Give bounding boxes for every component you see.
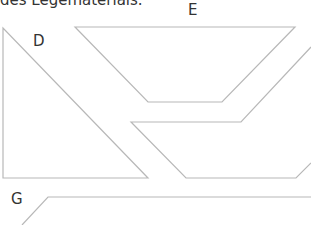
puzzle-shapes-diagram xyxy=(0,0,311,225)
label-d: D xyxy=(33,34,45,49)
shape-d-triangle xyxy=(3,28,148,178)
shape-middle-piece xyxy=(131,47,311,178)
label-e: E xyxy=(188,3,197,18)
shape-g-piece xyxy=(22,197,311,225)
shape-e-trapezoid xyxy=(75,27,295,102)
label-g: G xyxy=(11,192,23,207)
